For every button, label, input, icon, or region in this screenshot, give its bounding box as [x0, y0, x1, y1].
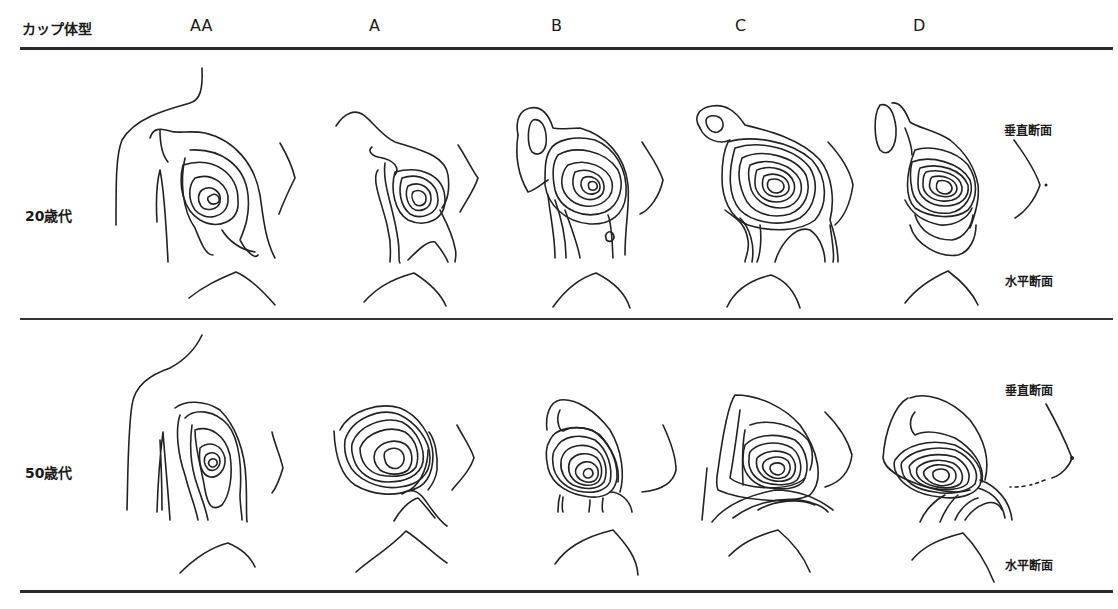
panel-50s-c	[702, 395, 852, 572]
panel-20s-c	[697, 106, 853, 308]
panel-20s-a	[336, 112, 478, 306]
panel-20s-d	[875, 103, 1040, 305]
panel-50s-aa	[127, 335, 283, 573]
panel-50s-a	[334, 406, 474, 572]
panel-50s-d	[883, 396, 1072, 582]
panel-20s-b	[517, 108, 663, 308]
contour-figure	[0, 0, 1118, 609]
panel-50s-b	[546, 400, 676, 575]
panel-20s-aa	[116, 68, 295, 305]
